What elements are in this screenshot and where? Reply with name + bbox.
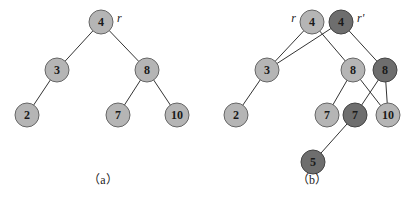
node-a4: 4 (89, 10, 113, 34)
node-value: 3 (54, 63, 60, 77)
node-a10: 10 (165, 103, 189, 127)
caption-b: （b） (297, 173, 327, 187)
node-b5: 5 (301, 150, 325, 174)
persistent-bst-diagram: 4 r 3 8 2 7 10 r 4 4 (0, 0, 410, 201)
node-value: 4 (98, 15, 104, 29)
node-value: 5 (310, 155, 316, 169)
node-value: 7 (324, 108, 330, 122)
node-b4-prime: 4 (329, 10, 353, 34)
node-b4: 4 (300, 10, 324, 34)
node-b7-prime: 7 (343, 103, 367, 127)
root-tag-r: r (291, 11, 296, 25)
node-a7: 7 (106, 103, 130, 127)
node-value: 10 (171, 108, 183, 122)
caption-a: （a） (88, 173, 117, 187)
node-b8-prime: 8 (373, 58, 397, 82)
node-a8: 8 (135, 58, 159, 82)
node-value: 8 (144, 63, 150, 77)
node-value: 4 (309, 15, 315, 29)
panel-a-nodes: 4 r 3 8 2 7 10 (15, 10, 189, 127)
node-value: 7 (115, 108, 121, 122)
node-value: 2 (233, 108, 239, 122)
node-value: 8 (382, 63, 388, 77)
node-b8: 8 (341, 58, 365, 82)
node-b10: 10 (376, 103, 400, 127)
node-value: 7 (352, 108, 358, 122)
node-a3: 3 (45, 58, 69, 82)
root-tag-r-prime: r' (357, 11, 365, 25)
node-b2: 2 (224, 103, 248, 127)
node-value: 10 (382, 108, 394, 122)
node-value: 2 (24, 108, 30, 122)
node-a2: 2 (15, 103, 39, 127)
node-value: 4 (338, 15, 344, 29)
root-tag-r: r (117, 11, 122, 25)
node-value: 3 (264, 63, 270, 77)
panel-b-nodes: r 4 4 r' 3 8 8 2 7 (224, 10, 400, 174)
node-value: 8 (350, 63, 356, 77)
node-b7: 7 (315, 103, 339, 127)
node-b3: 3 (255, 58, 279, 82)
panel-b-edges (236, 22, 388, 162)
